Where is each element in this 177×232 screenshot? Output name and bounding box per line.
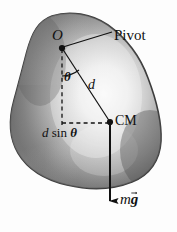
weight-label: mg: [120, 192, 138, 207]
moment-arm-label: d sin θ: [42, 126, 77, 139]
rigid-body-shape: [0, 0, 177, 232]
pivot-point-label: O: [52, 28, 63, 43]
physics-figure: O Pivot θ d d sin θ CM mg: [0, 0, 177, 232]
angle-label-theta: θ: [64, 70, 71, 83]
center-of-mass-marker: [107, 119, 113, 125]
distance-label-d: d: [88, 78, 95, 92]
figure-canvas: [0, 0, 177, 232]
pivot-point-marker: [59, 45, 65, 51]
center-of-mass-label: CM: [115, 114, 137, 128]
pivot-callout-label: Pivot: [114, 28, 146, 43]
moment-arm-sin-part: sin: [52, 125, 67, 140]
weight-mass-symbol: m: [120, 191, 131, 207]
vector-arrow-overbar: [131, 191, 138, 195]
gravity-vector-symbol: g: [131, 192, 139, 207]
moment-arm-theta-part: θ: [70, 125, 77, 140]
